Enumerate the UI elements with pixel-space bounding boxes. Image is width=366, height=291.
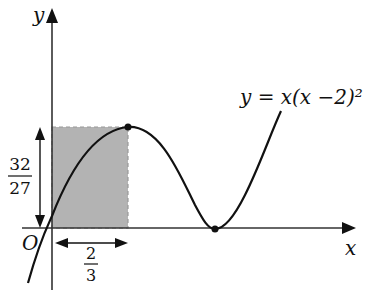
origin-label: O — [22, 231, 38, 255]
y-axis-arrow-icon — [46, 8, 58, 23]
height-numerator: 32 — [9, 154, 31, 174]
height-arrow-bottom-icon — [35, 215, 45, 228]
x-axis-arrow-icon — [342, 222, 356, 234]
x-axis-label: x — [345, 236, 356, 260]
height-arrow-top-icon — [35, 127, 45, 140]
height-denominator: 27 — [9, 178, 31, 198]
minimum-point — [212, 226, 219, 233]
width-denominator: 3 — [86, 266, 96, 285]
function-label: y = x(x −2)² — [239, 85, 363, 109]
y-axis-label: y — [32, 3, 45, 27]
width-numerator: 2 — [86, 244, 96, 263]
function-label-text: y = x(x −2)² — [239, 85, 363, 109]
width-arrow-right-icon — [115, 238, 128, 248]
shaded-rectangle — [52, 127, 128, 228]
width-arrow-left-icon — [55, 238, 68, 248]
maximum-point — [125, 124, 132, 131]
function-graph: 32 27 2 3 y x O y = x(x −2)² — [0, 0, 366, 291]
